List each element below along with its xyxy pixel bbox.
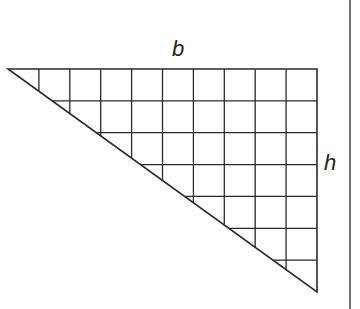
height-label: h — [324, 150, 336, 175]
grid-lines — [39, 69, 317, 270]
triangle-grid-figure: b h — [0, 0, 360, 309]
base-label: b — [172, 36, 184, 61]
